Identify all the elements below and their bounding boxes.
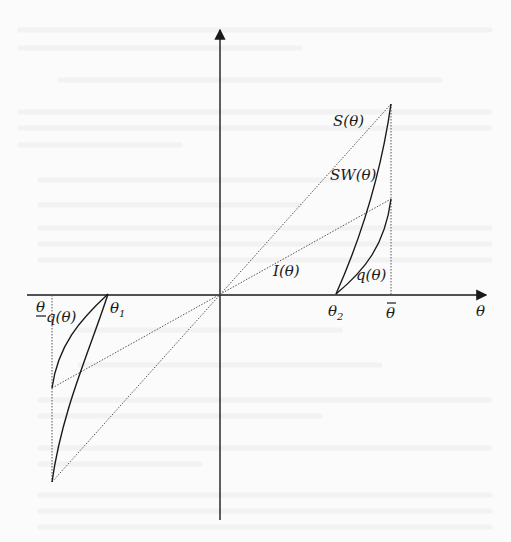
svg-text:θ: θ bbox=[386, 304, 395, 322]
svg-text:1: 1 bbox=[119, 308, 125, 319]
diagram-canvas: S(θ) SW(θ) I(θ) q(θ) q(θ) θ θ θ 1 θ 2 θ bbox=[0, 0, 511, 542]
label-theta-1: θ 1 bbox=[110, 299, 125, 319]
label-theta-lower: θ bbox=[36, 298, 46, 316]
svg-text:θ: θ bbox=[328, 302, 337, 320]
label-theta-axis: θ bbox=[476, 302, 485, 320]
s-theta-line bbox=[52, 104, 391, 482]
label-q-theta-left: q(θ) bbox=[46, 308, 76, 326]
label-theta-upper: θ bbox=[386, 303, 396, 322]
background-bleed-texture bbox=[20, 30, 490, 527]
label-theta-2: θ 2 bbox=[328, 302, 343, 322]
svg-text:θ: θ bbox=[110, 299, 119, 317]
label-s-theta: S(θ) bbox=[333, 112, 364, 130]
label-q-theta-right: q(θ) bbox=[356, 266, 386, 284]
label-i-theta: I(θ) bbox=[272, 262, 300, 280]
label-sw-theta: SW(θ) bbox=[330, 166, 377, 184]
figure: S(θ) SW(θ) I(θ) q(θ) q(θ) θ θ θ 1 θ 2 θ bbox=[0, 0, 511, 542]
svg-text:2: 2 bbox=[336, 311, 343, 322]
svg-text:θ: θ bbox=[36, 298, 45, 316]
